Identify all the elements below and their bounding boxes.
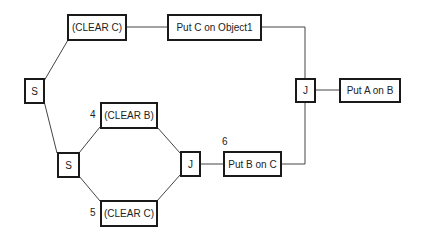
node-label: Put B on C [228, 159, 276, 170]
node-label: Put A on B [347, 85, 394, 96]
node-label: (CLEAR B) [104, 110, 153, 121]
put-c-on-object1-node: Put C on Object1 [167, 14, 262, 41]
put-a-on-b-node: Put A on B [339, 78, 401, 103]
node-label: Put C on Object1 [176, 22, 252, 33]
node-label: J [188, 159, 193, 170]
clear-b-node: (CLEAR B) [100, 102, 158, 129]
node-label: S [65, 160, 72, 171]
clear-c-top-node: (CLEAR C) [67, 14, 127, 41]
put-b-on-c-node: Put B on C [223, 151, 282, 177]
split-inner-node: S [57, 152, 80, 178]
node-label: S [31, 86, 38, 97]
step-number-6: 6 [222, 136, 228, 147]
node-label: J [303, 85, 308, 96]
clear-c-bottom-node: (CLEAR C) [100, 200, 158, 227]
split-top-node: S [24, 78, 45, 104]
join-right-node: J [295, 78, 316, 103]
node-label: (CLEAR C) [72, 22, 122, 33]
node-label: (CLEAR C) [104, 208, 154, 219]
join-inner-node: J [180, 151, 201, 177]
step-number-5: 5 [90, 207, 96, 218]
step-number-4: 4 [90, 109, 96, 120]
